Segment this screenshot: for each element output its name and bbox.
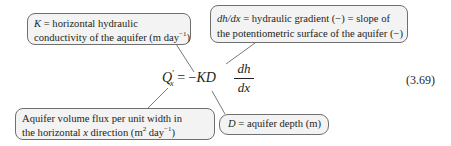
flux-line2-mid2: day — [146, 127, 164, 138]
eq-denominator: dx — [234, 80, 254, 96]
fraction-bar — [234, 78, 254, 79]
callout-hydraulic-gradient: dh/dx = hydraulic gradient (−) = slope o… — [210, 5, 408, 43]
flux-line2-pre: the horizontal — [22, 127, 83, 138]
flux-line2-mid: direction (m — [88, 127, 143, 138]
flux-line1: Aquifer volume flux per unit width in — [22, 112, 208, 126]
eq-equals: = − — [174, 70, 197, 85]
eq-fraction: dh dx — [234, 61, 254, 96]
k-line2: conductivity of the aquifer (m day — [34, 32, 179, 43]
callout-hydraulic-conductivity: K = horizontal hydraulic conductivity of… — [27, 13, 191, 45]
flux-sup2: −1 — [164, 125, 171, 133]
equation-number: (3.69) — [406, 73, 435, 88]
gradient-symbol: dh/dx — [217, 13, 241, 24]
eq-kd: KD — [196, 70, 215, 85]
flux-line2-post: ) — [172, 127, 176, 138]
callout-volume-flux: Aquifer volume flux per unit width in th… — [15, 108, 215, 140]
equation: Q′x = −KD — [162, 70, 216, 88]
gradient-line1: = hydraulic gradient (−) = slope of — [241, 13, 390, 24]
depth-text: = aquifer depth (m) — [236, 118, 321, 129]
depth-symbol: D — [228, 118, 236, 129]
gradient-line2: the potentiometric surface of the aquife… — [217, 26, 401, 41]
k-line2-post: ) — [186, 32, 190, 43]
eq-numerator: dh — [234, 61, 254, 77]
callout-aquifer-depth: D = aquifer depth (m) — [219, 114, 329, 135]
k-line1: = horizontal hydraulic — [41, 18, 138, 29]
